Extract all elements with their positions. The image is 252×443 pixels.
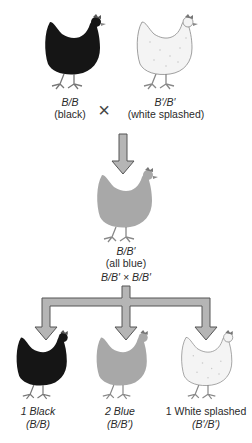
f2-black-genotype: (B/B) — [8, 418, 68, 430]
black-chicken-f2 — [10, 328, 76, 400]
parent-right-genotype: B′/B′ — [140, 96, 190, 108]
f2-white-label: 1 White splashed — [160, 405, 252, 417]
white-splashed-chicken-f2 — [175, 328, 241, 400]
cross-symbol: × — [96, 100, 112, 120]
parent-right-phenotype: (white splashed) — [114, 108, 218, 120]
white-splashed-chicken-parent — [130, 12, 202, 90]
f1-genotype: B/B′ — [100, 245, 152, 257]
blue-chicken-f1 — [90, 165, 162, 243]
parent-left-genotype: B/B — [48, 96, 92, 108]
blue-chicken-f2 — [90, 328, 156, 400]
black-chicken-parent — [38, 12, 110, 90]
f1-phenotype: (all blue) — [96, 257, 156, 269]
f2-blue-genotype: (B/B′) — [90, 418, 150, 430]
f2-black-label: 1 Black — [8, 405, 68, 417]
f1-cross: B/B′ × B/B′ — [76, 271, 176, 283]
parent-left-phenotype: (black) — [44, 108, 96, 120]
f2-white-genotype: (B′/B′) — [174, 418, 238, 430]
f2-blue-label: 2 Blue — [90, 405, 150, 417]
